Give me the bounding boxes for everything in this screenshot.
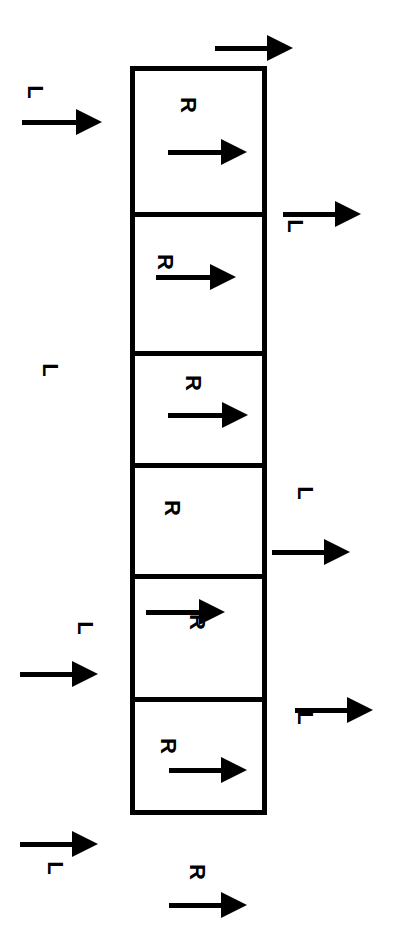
- right-label-l: L: [294, 486, 316, 499]
- arrow-head-icon: [221, 757, 247, 783]
- arrow-shaft: [169, 903, 225, 908]
- cell-label-r: R: [182, 375, 204, 391]
- arrow-shaft: [168, 413, 226, 418]
- cell-divider: [130, 697, 267, 702]
- arrow-shaft: [20, 672, 76, 677]
- arrow-head-icon: [335, 201, 361, 227]
- arrow-shaft: [169, 768, 225, 773]
- arrow-head-icon: [222, 402, 248, 428]
- arrow-shaft: [272, 550, 328, 555]
- arrow-head-icon: [221, 892, 247, 918]
- cell-label-r: R: [157, 738, 179, 754]
- cell-label-r: R: [161, 500, 183, 516]
- cell-label-r: R: [177, 97, 199, 113]
- right-label-l: L: [294, 711, 316, 724]
- arrow-shaft: [22, 120, 80, 125]
- cell-divider: [130, 463, 267, 468]
- cell-divider: [130, 574, 267, 579]
- cell-divider: [130, 212, 267, 217]
- arrow-head-icon: [199, 599, 225, 625]
- left-label-l: L: [24, 85, 46, 98]
- arrow-shaft: [283, 212, 339, 217]
- arrow-shaft: [168, 150, 225, 155]
- left-label-l: L: [44, 861, 66, 874]
- arrow-head-icon: [76, 109, 102, 135]
- arrow-shaft: [295, 708, 351, 713]
- left-label-l: L: [39, 363, 61, 376]
- arrow-shaft: [146, 610, 203, 615]
- left-label-l: L: [74, 621, 96, 634]
- flow-diagram: RRRRRR LLLLLLLR: [0, 0, 395, 930]
- arrow-head-icon: [210, 264, 236, 290]
- segmented-column: [130, 66, 267, 815]
- arrow-head-icon: [347, 697, 373, 723]
- arrow-head-icon: [324, 539, 350, 565]
- cell-label-r: R: [154, 254, 176, 270]
- arrow-head-icon: [221, 139, 247, 165]
- bottom-label-r: R: [186, 864, 208, 880]
- arrow-shaft: [215, 46, 271, 51]
- arrow-head-icon: [267, 35, 293, 61]
- right-label-l: L: [284, 219, 306, 232]
- arrow-head-icon: [72, 831, 98, 857]
- arrow-shaft: [20, 842, 76, 847]
- arrow-shaft: [156, 275, 214, 280]
- cell-divider: [130, 351, 267, 356]
- arrow-head-icon: [72, 661, 98, 687]
